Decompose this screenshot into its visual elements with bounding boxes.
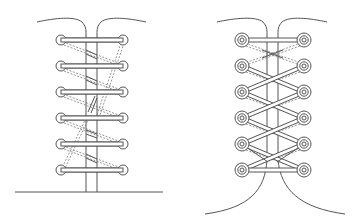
right-visible-crisscross [242, 38, 304, 172]
eyelet-hole [302, 116, 306, 120]
eyelet-hole [240, 38, 244, 42]
eyelet-hole [240, 116, 244, 120]
eyelet-hole [302, 64, 306, 68]
left-shoe-top-curve-right [97, 18, 146, 34]
straight-bar-lacing-diagram [15, 18, 163, 192]
criss-cross-lacing-diagram [205, 18, 345, 214]
horizontal-lace-bar-top [61, 38, 123, 42]
left-hidden-lace-segments [62, 42, 124, 170]
bottom-horizontal-bar [242, 168, 304, 172]
eyelet-hole [240, 168, 244, 172]
eyelet-hole [302, 142, 306, 146]
right-shoe-top-curve-right [278, 18, 327, 34]
left-horizontal-bars [61, 38, 123, 172]
eyelet-hole [302, 168, 306, 172]
horizontal-lace-bar-top [61, 90, 123, 94]
lacing-diagrams-canvas [0, 0, 357, 224]
left-shoe-top-curve-left [37, 18, 86, 34]
eyelet-hole [240, 142, 244, 146]
eyelet-hole [240, 90, 244, 94]
left-eyelets [56, 35, 128, 175]
horizontal-lace-bar-top [61, 168, 123, 172]
horizontal-lace-bar-top [61, 142, 123, 146]
lacing-diagram-figure [0, 0, 357, 224]
horizontal-lace-bar-top [61, 116, 123, 120]
eyelet-hole [302, 90, 306, 94]
top-horizontal-bar [242, 38, 304, 42]
eyelet-hole [240, 64, 244, 68]
eyelet-hole [302, 38, 306, 42]
horizontal-lace-bar-top [61, 64, 123, 68]
right-shoe-top-curve-left [217, 18, 267, 34]
